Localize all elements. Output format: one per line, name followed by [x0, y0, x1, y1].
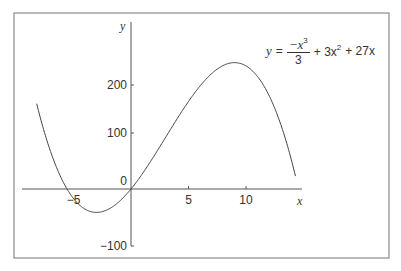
numerator-exponent: 3 [303, 36, 307, 45]
y-tick-label: 0 [120, 174, 127, 188]
x-tick-label: −5 [67, 193, 81, 207]
y-tick-label: 100 [107, 126, 127, 140]
y-axis-label: y [119, 19, 126, 33]
equation-label: y = −x3 3 + 3x2 + 27x [266, 34, 375, 67]
x-axis-label: x [296, 194, 303, 208]
function-curve [37, 63, 296, 213]
fraction-denominator: 3 [295, 53, 302, 67]
fraction-numerator: −x3 [287, 34, 310, 53]
x-tick-label: 10 [239, 193, 253, 207]
equation-term2: + 3x2 [314, 43, 341, 59]
y-tick-label: −100 [100, 239, 127, 253]
term2-text: + 3x [314, 45, 337, 59]
term2-exponent: 2 [337, 43, 341, 52]
equation-fraction: −x3 3 [287, 34, 310, 67]
y-ticks: 0100200−100 [100, 78, 134, 253]
equation-term3: + 27x [345, 44, 375, 58]
equation-lhs: y [266, 43, 272, 59]
x-tick-label: 5 [185, 193, 192, 207]
numerator-text: −x [289, 37, 304, 52]
y-tick-label: 200 [107, 78, 127, 92]
equation-equals: = [276, 44, 283, 58]
